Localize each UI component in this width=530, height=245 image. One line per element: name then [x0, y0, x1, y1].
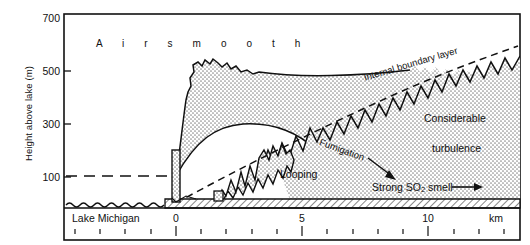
so2-text-tail: smell [425, 181, 452, 193]
y-tick-label-100: 100 [26, 171, 60, 183]
looping-label: Looping [280, 168, 317, 180]
x-axis-ticks [75, 226, 504, 236]
tall-smokestack [172, 150, 180, 202]
strong-so2-smell-label: Strong SO2 smell [372, 181, 453, 194]
y-axis-ticks [64, 71, 71, 177]
turbulence-label: turbulence [432, 142, 481, 154]
considerable-label: Considerable [424, 112, 486, 124]
x-tick-label-0: 0 [161, 212, 191, 224]
y-tick-label-300: 300 [26, 118, 60, 130]
x-tick-label-5: 5 [287, 212, 317, 224]
lake-michigan-label: Lake Michigan [72, 212, 140, 224]
x-axis-unit-label: km [489, 212, 503, 224]
y-axis-label: Height above lake (m) [23, 34, 34, 194]
so2-text-lead: Strong SO [372, 181, 421, 193]
short-smokestack [214, 191, 223, 201]
y-tick-label-500: 500 [26, 65, 60, 77]
figure-diagram: Height above lake (m) 700 500 300 100 0 … [0, 0, 530, 245]
lake-surface [66, 203, 164, 207]
y-tick-label-700: 700 [26, 12, 60, 24]
air-smooth-label: A i r s m o o t h [96, 38, 309, 49]
x-tick-label-10: 10 [413, 212, 443, 224]
